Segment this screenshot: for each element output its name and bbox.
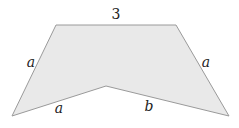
label-top: 3 [112,6,121,22]
pentagon-figure: 3 a a a b [0,0,239,128]
label-left-side: a [27,54,35,70]
diagram-canvas: 3 a a a b [0,0,239,128]
label-bottom-left: a [55,100,63,116]
label-right-side: a [202,54,210,70]
pentagon-shape [12,25,229,116]
label-bottom-right: b [145,98,154,114]
